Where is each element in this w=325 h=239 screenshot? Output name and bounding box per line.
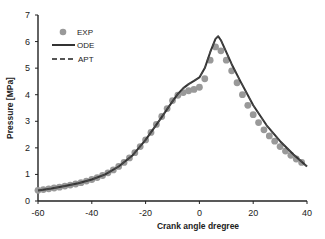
data-point <box>239 91 246 98</box>
data-point <box>201 75 208 82</box>
legend-label-apt: APT <box>78 55 94 64</box>
x-tick-label: -20 <box>139 208 152 218</box>
exp-marker-icon <box>60 29 67 36</box>
pressure-chart: 01234567 -60-40-2002040 Pressure [MPa] C… <box>0 0 325 239</box>
y-tick-label: 1 <box>25 169 30 179</box>
x-tick-label: 40 <box>302 208 312 218</box>
x-axis: -60-40-2002040 <box>31 201 312 218</box>
data-point <box>196 84 203 91</box>
legend-label-exp: EXP <box>77 28 93 37</box>
data-point <box>255 119 262 126</box>
x-tick-label: 0 <box>197 208 202 218</box>
data-point <box>244 102 251 109</box>
x-axis-label: Crank angle dregree <box>157 221 239 231</box>
y-axis-label: Pressure [MPa] <box>5 77 15 139</box>
series-layer <box>35 36 307 193</box>
y-tick-label: 5 <box>25 63 30 73</box>
y-tick-label: 3 <box>25 116 30 126</box>
legend: EXP ODE APT <box>52 28 94 64</box>
data-point <box>218 47 225 54</box>
x-tick-label: 20 <box>248 208 258 218</box>
y-axis: 01234567 <box>25 10 38 206</box>
y-tick-label: 0 <box>25 196 30 206</box>
x-tick-label: -40 <box>85 208 98 218</box>
data-point <box>266 133 273 140</box>
x-tick-label: -60 <box>31 208 44 218</box>
y-tick-label: 7 <box>25 10 30 20</box>
y-tick-label: 6 <box>25 37 30 47</box>
legend-label-ode: ODE <box>77 41 94 50</box>
y-tick-label: 4 <box>25 90 30 100</box>
y-tick-label: 2 <box>25 143 30 153</box>
data-point <box>250 111 257 118</box>
series-exp <box>35 43 305 193</box>
data-point <box>261 126 268 133</box>
